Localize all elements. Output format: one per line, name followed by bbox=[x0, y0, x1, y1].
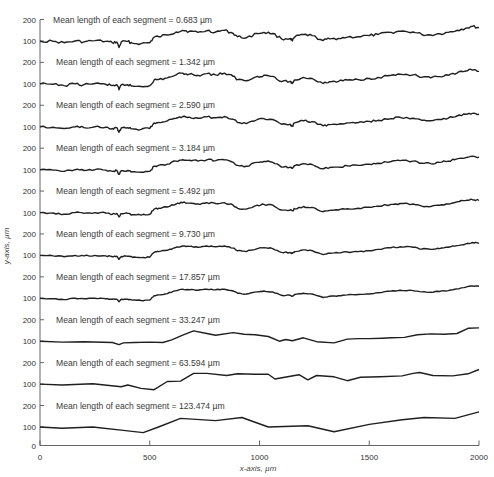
y-tick-label: 100 bbox=[23, 294, 37, 303]
y-tick-label: 200 bbox=[23, 187, 37, 196]
y-tick-label: 200 bbox=[23, 16, 37, 25]
profile-trace bbox=[40, 26, 479, 48]
y-tick-label: 100 bbox=[23, 37, 37, 46]
y-tick-label: 200 bbox=[23, 273, 37, 282]
x-tick-label: 1000 bbox=[251, 453, 269, 462]
x-axis-title: x-axis, µm bbox=[239, 464, 277, 473]
segment-length-label: Mean length of each segment = 9.730 µm bbox=[56, 229, 215, 239]
x-tick-label: 500 bbox=[143, 453, 157, 462]
x-tick-label: 2000 bbox=[470, 453, 488, 462]
profile-trace bbox=[40, 69, 479, 90]
y-tick-label: 200 bbox=[23, 230, 37, 239]
y-tick-label: 100 bbox=[23, 166, 37, 175]
profile-trace bbox=[40, 113, 479, 132]
segment-length-label: Mean length of each segment = 17.857 µm bbox=[56, 272, 220, 282]
y-tick-label: 200 bbox=[23, 58, 37, 67]
y-tick-label: 200 bbox=[23, 402, 37, 411]
x-tick-label: 1500 bbox=[360, 453, 378, 462]
y-tick-label: 100 bbox=[23, 80, 37, 89]
profile-trace bbox=[40, 286, 479, 302]
y-tick-label: 100 bbox=[23, 423, 37, 432]
y-tick-label: 200 bbox=[23, 101, 37, 110]
segment-length-label: Mean length of each segment = 2.590 µm bbox=[56, 100, 215, 110]
y-tick-label: 100 bbox=[23, 380, 37, 389]
y-tick-label: 200 bbox=[23, 359, 37, 368]
segment-length-label: Mean length of each segment = 5.492 µm bbox=[56, 186, 215, 196]
y-tick-label: 200 bbox=[23, 316, 37, 325]
profile-trace bbox=[40, 412, 479, 433]
y-axis-title: y-axis, µm bbox=[2, 227, 11, 265]
profile-trace bbox=[40, 328, 479, 345]
segment-length-label: Mean length of each segment = 33.247 µm bbox=[56, 315, 220, 325]
profile-trace bbox=[40, 370, 479, 390]
profile-trace bbox=[40, 156, 479, 174]
x-tick-label: 0 bbox=[38, 453, 43, 462]
y-tick-label: 200 bbox=[23, 144, 37, 153]
y-tick-label: 100 bbox=[23, 337, 37, 346]
segment-length-label: Mean length of each segment = 1.342 µm bbox=[56, 57, 215, 67]
segment-length-label: Mean length of each segment = 63.594 µm bbox=[56, 358, 220, 368]
y-tick-label-zero: 0 bbox=[32, 442, 37, 451]
y-tick-label: 100 bbox=[23, 251, 37, 260]
y-tick-label: 100 bbox=[23, 209, 37, 218]
profile-trace bbox=[40, 199, 479, 217]
stacked-profile-chart: 0500100015002000200100200100200100200100… bbox=[0, 0, 494, 477]
profile-trace bbox=[40, 242, 479, 259]
segment-length-label: Mean length of each segment = 3.184 µm bbox=[56, 143, 215, 153]
y-tick-label: 100 bbox=[23, 123, 37, 132]
segment-length-label: Mean length of each segment = 123.474 µm bbox=[56, 401, 225, 411]
segment-length-label: Mean length of each segment = 0.683 µm bbox=[53, 15, 212, 25]
